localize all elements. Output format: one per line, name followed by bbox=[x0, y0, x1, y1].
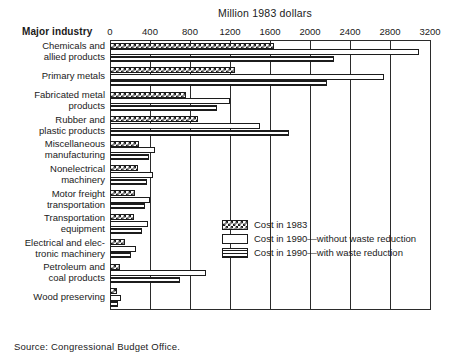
x-tick-label: 1200 bbox=[210, 26, 250, 37]
x-tick-label: 0 bbox=[90, 26, 130, 37]
category-label-line: machinery bbox=[0, 174, 105, 185]
category-label: Electrical and elec-tronic machinery bbox=[0, 237, 105, 259]
category-label-line: products bbox=[0, 100, 105, 111]
bar bbox=[110, 165, 138, 171]
category-label-line: Primary metals bbox=[0, 70, 105, 81]
bar bbox=[110, 246, 136, 252]
x-tick-label: 800 bbox=[170, 26, 210, 37]
bar bbox=[110, 116, 198, 122]
category-label-line: Transportation bbox=[0, 212, 105, 223]
category-label: Primary metals bbox=[0, 70, 105, 81]
bar bbox=[110, 105, 217, 111]
bar bbox=[110, 92, 186, 98]
plot-bottom-border bbox=[110, 309, 430, 310]
category-label: Chemicals andallied products bbox=[0, 40, 105, 62]
bar bbox=[110, 74, 384, 80]
bar bbox=[110, 154, 149, 160]
category-label: Fabricated metalproducts bbox=[0, 89, 105, 111]
category-label: Miscellaneousmanufacturing bbox=[0, 138, 105, 160]
bar bbox=[110, 301, 118, 307]
category-label-line: Chemicals and bbox=[0, 40, 105, 51]
bar bbox=[110, 179, 147, 185]
category-label-line: Motor freight bbox=[0, 188, 105, 199]
bar bbox=[110, 221, 148, 227]
legend-swatch bbox=[222, 220, 248, 230]
gridline bbox=[390, 40, 391, 310]
category-label-line: Miscellaneous bbox=[0, 138, 105, 149]
bar bbox=[110, 98, 230, 104]
bar bbox=[110, 214, 134, 220]
bar bbox=[110, 67, 235, 73]
x-tick-label: 3200 bbox=[410, 26, 450, 37]
bar bbox=[110, 172, 153, 178]
category-label: Transportationequipment bbox=[0, 212, 105, 234]
legend-label: Cost in 1983 bbox=[254, 219, 307, 231]
category-label: Wood preserving bbox=[0, 291, 105, 302]
x-tick-label: 2000 bbox=[290, 26, 330, 37]
x-tick-label: 400 bbox=[130, 26, 170, 37]
category-label-line: allied products bbox=[0, 51, 105, 62]
category-label-line: Wood preserving bbox=[0, 291, 105, 302]
bar bbox=[110, 130, 289, 136]
category-label-line: Fabricated metal bbox=[0, 89, 105, 100]
bar bbox=[110, 252, 131, 258]
category-label-line: equipment bbox=[0, 223, 105, 234]
category-label-line: Nonelectrical bbox=[0, 163, 105, 174]
plot-top-border bbox=[110, 40, 430, 41]
bar bbox=[110, 80, 327, 86]
bar bbox=[110, 43, 274, 49]
gridline bbox=[350, 40, 351, 310]
category-label-line: plastic products bbox=[0, 125, 105, 136]
chart-container: Million 1983 dollars Major industry 0400… bbox=[0, 0, 451, 360]
gridline bbox=[430, 40, 431, 310]
bar bbox=[110, 228, 142, 234]
bar bbox=[110, 190, 135, 196]
source-note: Source: Congressional Budget Office. bbox=[14, 341, 180, 352]
category-label: Petroleum andcoal products bbox=[0, 261, 105, 283]
category-label: Rubber andplastic products bbox=[0, 114, 105, 136]
category-label: Motor freighttransportation bbox=[0, 188, 105, 210]
bar bbox=[110, 277, 180, 283]
category-label-line: manufacturing bbox=[0, 149, 105, 160]
bar bbox=[110, 295, 121, 301]
category-label-line: coal products bbox=[0, 272, 105, 283]
category-label-line: Petroleum and bbox=[0, 261, 105, 272]
category-label-line: tronic machinery bbox=[0, 248, 105, 259]
bar bbox=[110, 239, 125, 245]
bar bbox=[110, 123, 260, 129]
legend-swatch bbox=[222, 234, 248, 244]
bar bbox=[110, 56, 334, 62]
category-label-line: transportation bbox=[0, 199, 105, 210]
category-label-line: Rubber and bbox=[0, 114, 105, 125]
category-label-line: Electrical and elec- bbox=[0, 237, 105, 248]
legend-swatch bbox=[222, 248, 248, 258]
bar bbox=[110, 203, 145, 209]
bar bbox=[110, 49, 419, 55]
plot-area bbox=[110, 40, 430, 310]
category-label: Nonelectricalmachinery bbox=[0, 163, 105, 185]
chart-axis-title: Million 1983 dollars bbox=[218, 7, 312, 19]
legend-label: Cost in 1990—with waste reduction bbox=[254, 247, 403, 259]
category-axis-header: Major industry bbox=[22, 26, 92, 37]
x-tick-label: 2400 bbox=[330, 26, 370, 37]
bar bbox=[110, 264, 120, 270]
bar bbox=[110, 147, 155, 153]
bar bbox=[110, 197, 150, 203]
legend-label: Cost in 1990—without waste reduction bbox=[254, 233, 416, 245]
x-tick-label: 2800 bbox=[370, 26, 410, 37]
bar bbox=[110, 288, 117, 294]
bar bbox=[110, 270, 206, 276]
bar bbox=[110, 141, 139, 147]
x-tick-label: 1600 bbox=[250, 26, 290, 37]
